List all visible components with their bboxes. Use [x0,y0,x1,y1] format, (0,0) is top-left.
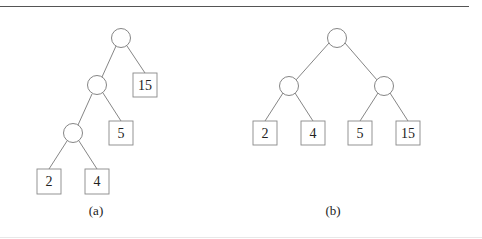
svg-text:4: 4 [310,126,317,141]
tree-a-leaf-5: 5 [109,121,133,145]
svg-text:2: 2 [46,174,53,189]
panel-b-nodes: 2 4 5 15 [253,29,420,146]
tree-b-internal-node [375,77,394,96]
tree-a-leaf-15: 15 [133,73,157,97]
svg-text:2: 2 [262,126,269,141]
tree-diagrams: 15 5 2 4 2 4 [0,0,482,239]
tree-b-leaf-4: 4 [301,121,325,145]
tree-b-internal-node [280,77,299,96]
bottom-rule [0,237,482,238]
tree-b-leaf-2: 2 [253,121,277,145]
svg-text:4: 4 [94,174,101,189]
tree-b-root-node [328,29,347,48]
tree-b-leaf-5: 5 [348,121,372,145]
tree-a-leaf-2: 2 [37,169,61,194]
tree-a-root-node [112,29,131,48]
panel-b-caption: (b) [325,203,340,219]
tree-a-internal-node [88,76,107,95]
svg-text:15: 15 [138,78,152,93]
svg-text:15: 15 [401,126,415,141]
panel-a-caption: (a) [89,203,103,219]
panel-a-edges [49,46,145,169]
panel-a-nodes: 15 5 2 4 [37,29,157,195]
tree-b-leaf-15: 15 [396,121,420,145]
tree-a-internal-node [64,124,83,143]
svg-text:5: 5 [118,126,125,141]
svg-text:5: 5 [357,126,364,141]
tree-a-leaf-4: 4 [85,169,109,194]
